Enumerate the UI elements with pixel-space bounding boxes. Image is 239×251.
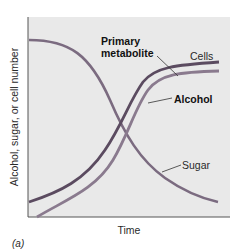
panel-label: (a) xyxy=(12,238,24,249)
primary-metabolite-label-line2: metabolite xyxy=(101,47,154,59)
sugar-label: Sugar xyxy=(182,159,211,171)
cells-label: Cells xyxy=(190,50,213,62)
chart: Primary metabolite Cells Alcohol Sugar T… xyxy=(0,0,239,251)
primary-metabolite-label-line1: Primary xyxy=(101,35,140,47)
alcohol-label: Alcohol xyxy=(174,93,213,105)
y-axis-label: Alcohol, sugar, or cell number xyxy=(8,47,20,186)
x-axis-label: Time xyxy=(118,224,141,236)
